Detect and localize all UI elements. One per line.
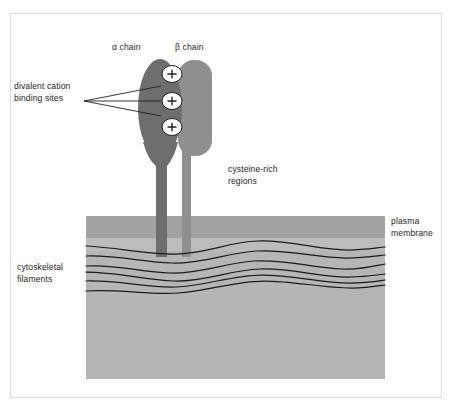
beta-chain-stalk (182, 140, 191, 257)
label-beta-chain: β chain (175, 42, 204, 54)
label-plasma-membrane: plasma membrane (391, 216, 433, 239)
plasma-membrane-inner-band (86, 238, 385, 251)
beta-chain-head (178, 60, 212, 156)
integrin-diagram (0, 0, 452, 413)
binding-site-2 (162, 93, 182, 110)
divalent-cation-binding-sites-group (162, 66, 182, 136)
cytoplasm-region (86, 251, 385, 379)
plasma-membrane-outer-band (86, 216, 385, 238)
binding-site-1 (162, 66, 182, 83)
label-divalent-cation-binding-sites: divalent cation binding sites (14, 81, 70, 104)
binding-site-3 (162, 119, 182, 136)
membrane-and-cytoplasm-group (86, 216, 385, 379)
label-alpha-chain: α chain (112, 42, 141, 54)
figure-canvas: α chain β chain divalent cation binding … (0, 0, 452, 413)
label-cysteine-rich-regions: cysteine-rich regions (228, 164, 278, 187)
label-cytoskeletal-filaments: cytoskeletal filaments (17, 262, 63, 285)
